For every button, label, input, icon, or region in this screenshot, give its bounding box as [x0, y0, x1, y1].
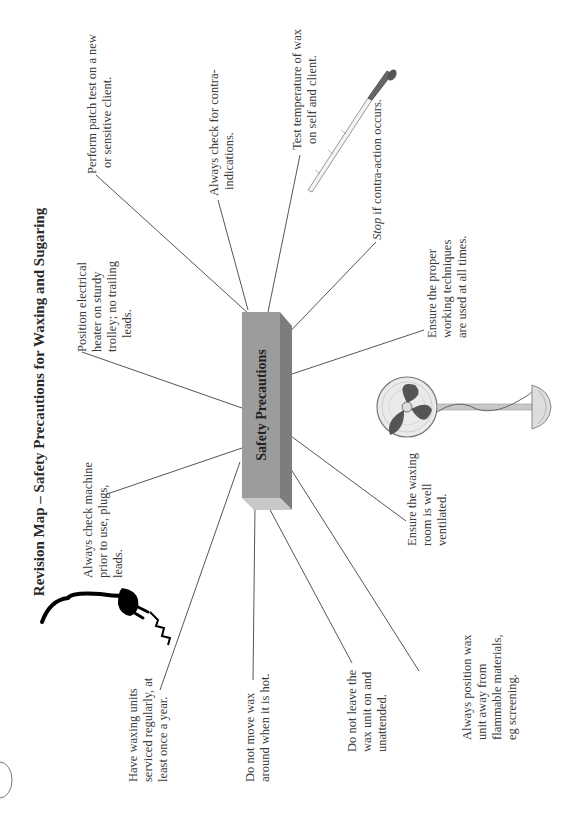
revision-map: Safety Precautions Revision Map – Safety… — [0, 0, 583, 816]
svg-text:Do not move waxaround when it: Do not move waxaround when it is hot. — [243, 673, 272, 782]
note-line: Ensure the proper — [425, 248, 439, 338]
connector-working-techniques — [280, 330, 424, 378]
note-ventilated: Ensure the waxingroom is wellventilated. — [405, 452, 449, 546]
svg-text:Stop if contra-action occurs.: Stop if contra-action occurs. — [370, 99, 384, 240]
note-stop-contra-action: Stop if contra-action occurs. — [370, 99, 384, 240]
note-line: trolley; no trailing — [105, 260, 119, 352]
note-line: Do not move wax — [243, 692, 257, 782]
svg-text:Always position waxunit away f: Always position waxunit away fromflammab… — [460, 634, 519, 740]
svg-text:Always check for contra-indica: Always check for contra-indications. — [207, 69, 236, 196]
connector-stop — [280, 242, 376, 342]
page-edge-circle-icon — [0, 762, 12, 798]
note-line: ventilated. — [435, 494, 449, 546]
center-label: Safety Precautions — [254, 349, 269, 461]
connector-contra-indications — [218, 200, 248, 310]
page-title: Revision Map – Safety Precautions for Wa… — [31, 207, 47, 596]
note-line: leads. — [111, 549, 125, 578]
note-line: Have waxing units — [126, 688, 140, 782]
note-line: flammable materials, — [490, 634, 504, 740]
spatula-icon — [308, 68, 398, 192]
note-line: leads. — [120, 309, 134, 338]
connector-electrical-heater — [82, 352, 242, 408]
svg-text:Do not leave thewax unit on an: Do not leave thewax unit on andunattende… — [345, 669, 389, 752]
connector-check-machine — [107, 448, 242, 494]
note-line: indications. — [222, 132, 236, 190]
svg-text:Ensure the waxingroom is wellv: Ensure the waxingroom is wellventilated. — [405, 452, 449, 546]
note-line: unit away from — [475, 663, 489, 740]
note-electrical-heater: Position electricalheater on sturdytroll… — [75, 260, 134, 352]
note-line: room is well — [420, 483, 434, 546]
note-line: eg screening. — [505, 674, 519, 740]
note-line: working techniques — [440, 240, 454, 338]
note-line: Always check for contra- — [207, 69, 221, 196]
connector-do-not-move — [253, 506, 255, 680]
note-test-temperature: Test temperature of waxon self and clien… — [290, 28, 319, 150]
svg-text:Perform patch test on a newor: Perform patch test on a newor sensitive … — [85, 34, 114, 174]
svg-text:Position electricalheater on s: Position electricalheater on sturdytroll… — [75, 260, 134, 352]
svg-text:Always check machineprior to u: Always check machineprior to use, plugs,… — [81, 462, 125, 578]
note-line: Position electrical — [75, 262, 89, 352]
note-line: Always check machine — [81, 462, 95, 578]
note-line: are used at all times. — [455, 236, 469, 338]
note-line: Ensure the waxing — [405, 452, 419, 546]
note-flammable: Always position waxunit away fromflammab… — [460, 634, 519, 740]
note-line: prior to use, plugs, — [96, 485, 110, 578]
note-check-machine: Always check machineprior to use, plugs,… — [81, 462, 125, 578]
svg-text:Have waxing unitsserviced regu: Have waxing unitsserviced regularly, atl… — [126, 677, 170, 782]
connector-serviced — [160, 462, 240, 690]
note-line: if contra-action occurs. — [370, 99, 384, 218]
connector-ventilated — [280, 428, 406, 521]
note-line: Always position wax — [460, 634, 474, 740]
note-line: on self and client. — [305, 55, 319, 144]
connector-unattended — [268, 506, 352, 663]
note-line: least once a year. — [156, 697, 170, 782]
note-do-not-move: Do not move waxaround when it is hot. — [243, 673, 272, 782]
note-serviced: Have waxing unitsserviced regularly, atl… — [126, 677, 170, 782]
note-contra-indications: Always check for contra-indications. — [207, 69, 236, 196]
note-line: Test temperature of wax — [290, 28, 304, 150]
note-line: serviced regularly, at — [141, 677, 155, 782]
note-line: around when it is hot. — [258, 673, 272, 782]
note-unattended: Do not leave thewax unit on andunattende… — [345, 669, 389, 752]
connector-flammable — [280, 452, 419, 671]
note-italic-prefix: Stop — [370, 218, 384, 240]
center-box-side — [280, 312, 292, 510]
fan-icon — [377, 377, 551, 437]
connector-patch-test — [96, 175, 250, 315]
note-line: wax unit on and — [360, 671, 374, 752]
plug-icon — [42, 588, 170, 645]
note-line: or sensitive client. — [100, 77, 114, 168]
note-line: unattended. — [375, 694, 389, 752]
center-box: Safety Precautions — [242, 312, 292, 510]
note-patch-test: Perform patch test on a newor sensitive … — [85, 34, 114, 174]
svg-text:Test temperature of waxon self: Test temperature of waxon self and clien… — [290, 28, 319, 150]
note-line: heater on sturdy — [90, 271, 104, 352]
note-line: Do not leave the — [345, 669, 359, 752]
connector-test-temperature — [268, 155, 300, 312]
svg-text:Ensure the properworking techn: Ensure the properworking techniquesare u… — [425, 236, 469, 338]
note-line: Perform patch test on a new — [85, 34, 99, 174]
note-working-techniques: Ensure the properworking techniquesare u… — [425, 236, 469, 338]
